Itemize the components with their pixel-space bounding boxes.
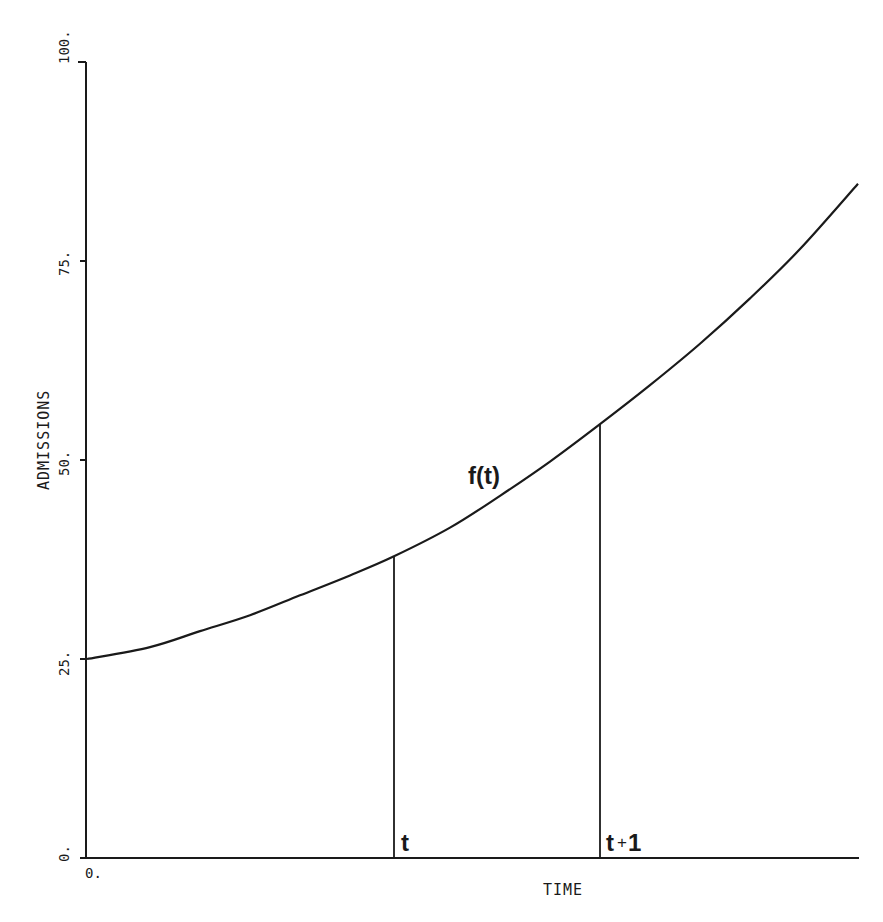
y-tick-label-75: 75. — [56, 251, 72, 276]
x-tick-label-0: 0. — [85, 865, 102, 881]
x-axis-title: TIME — [543, 881, 583, 899]
y-tick-label-100: 100. — [56, 30, 72, 64]
y-axis-title: ADMISSIONS — [35, 390, 53, 490]
marker-label-one: 1 — [628, 829, 641, 856]
marker-label-plus: + — [617, 833, 627, 852]
curve-label: f(t) — [468, 462, 500, 489]
y-tick-label-50: 50. — [56, 451, 72, 476]
f-of-t-curve — [87, 184, 858, 659]
y-tick-label-25: 25. — [56, 651, 72, 676]
y-tick-label-0: 0. — [56, 845, 72, 862]
chart-svg: 0. 25. 50. 75. 100. 0. ADMISSIONS TIME f… — [0, 0, 883, 922]
marker-label-t-base: t — [606, 829, 614, 856]
marker-label-t: t — [401, 829, 409, 856]
admissions-chart: 0. 25. 50. 75. 100. 0. ADMISSIONS TIME f… — [0, 0, 883, 922]
